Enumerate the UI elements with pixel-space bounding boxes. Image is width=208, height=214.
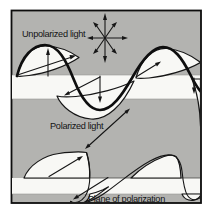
unpolarized-light-label: Unpolarized light [22, 29, 86, 39]
polarized-light-label: Polarized light [50, 121, 104, 131]
figure-canvas: Unpolarized light Polarized light Plane … [0, 0, 208, 214]
polarization-figure: Unpolarized light Polarized light Plane … [0, 0, 208, 214]
